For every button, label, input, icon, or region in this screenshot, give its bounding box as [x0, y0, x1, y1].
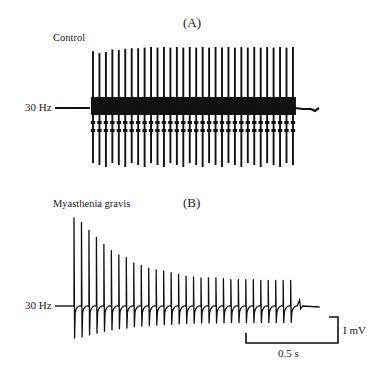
time-scale-label: 0.5 s: [278, 348, 299, 359]
control-trace: [55, 47, 319, 167]
panel-a-letter: (A): [183, 16, 201, 29]
panel-a-frequency: 30 Hz: [25, 102, 52, 113]
scale-bar: [246, 317, 338, 343]
panel-a-condition: Control: [53, 33, 85, 44]
panel-b-letter: (B): [183, 196, 200, 209]
panel-b-frequency: 30 Hz: [25, 300, 52, 311]
emg-figure: (A) Control 30 Hz (B) Myasthenia gravis …: [0, 0, 381, 372]
myasthenia-trace: [55, 218, 320, 338]
panel-b-condition: Myasthenia gravis: [53, 199, 130, 210]
amplitude-scale-label: I mV: [343, 325, 366, 336]
emg-traces: [0, 0, 381, 372]
